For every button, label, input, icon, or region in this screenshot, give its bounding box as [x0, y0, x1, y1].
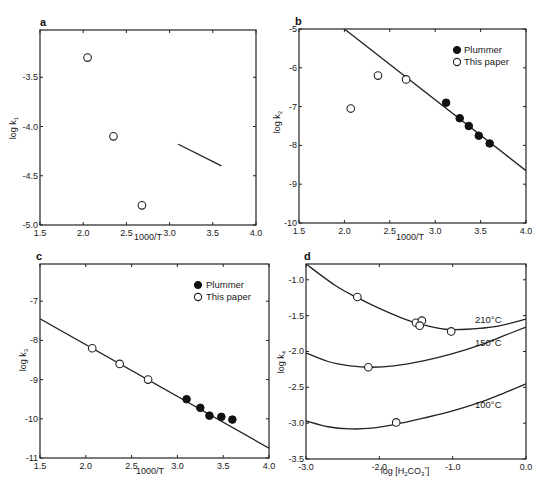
y-tick-label: -2.0 [288, 346, 304, 356]
y-tick-label: -8 [30, 335, 38, 345]
data-point [365, 363, 373, 371]
curve-label-150c: 150°C [475, 337, 502, 348]
panel-letter-c: c [36, 250, 42, 262]
y-tick-label: -6 [289, 63, 297, 73]
y-tick-label: -3.5 [288, 454, 304, 464]
y-tick-label: -3.0 [288, 418, 304, 428]
data-point [447, 328, 455, 336]
y-tick-label: -1.0 [288, 275, 304, 285]
curve-label-100c: 100°C [475, 399, 502, 410]
panel-b: b 1.52.02.53.03.54.0-5-6-7-8-9-10 1000/T… [272, 15, 532, 242]
data-series-c [40, 319, 269, 448]
legend-b: Plummer This paper [453, 44, 508, 67]
x-tick-label: 2.5 [384, 226, 397, 236]
plot-frame-a [40, 30, 256, 225]
y-tick-label: -5 [289, 24, 297, 34]
data-point [416, 322, 424, 330]
y-tick-label: -8 [289, 140, 297, 150]
panel-letter-a: a [40, 16, 47, 28]
y-tick-label: -10 [284, 218, 297, 228]
legend-label-plummer-c: Plummer [206, 279, 244, 290]
y-tick-label: -11 [26, 453, 38, 463]
data-point [456, 114, 464, 122]
y-tick-label: -4.5 [22, 171, 38, 181]
y-axis-label-a: log k1 [8, 116, 19, 139]
data-point [183, 395, 191, 403]
y-tick-label: -9 [289, 179, 297, 189]
x-tick-label: 3.0 [163, 228, 176, 238]
data-series-a [84, 54, 222, 209]
y-tick-label: -3.5 [22, 72, 38, 82]
x-tick-label: -1.0 [445, 462, 461, 472]
panel-c: c 1.52.02.53.03.54.0-7-8-9-10-11 1000/T … [18, 250, 275, 476]
plot-frame-d [306, 264, 526, 459]
y-tick-label: -9 [30, 375, 38, 385]
data-point [218, 413, 226, 421]
curve-label-210c: 210°C [475, 314, 502, 325]
y-tick-label: -5.0 [22, 220, 38, 230]
legend-label-thispaper-c: This paper [206, 291, 251, 302]
x-tick-label: 2.5 [120, 228, 133, 238]
axes-ticks-d: -3.0-2.0-1.00.0-1.0-1.5-2.0-2.5-3.0-3.5 [288, 264, 532, 472]
data-point [88, 344, 96, 352]
legend-marker-open-c [194, 293, 201, 300]
y-axis-label-c: log k3 [18, 348, 29, 371]
data-point [374, 72, 382, 80]
data-point [475, 132, 483, 140]
x-tick-label: 2.0 [338, 226, 351, 236]
x-tick-label: 2.0 [77, 228, 90, 238]
y-axis-label-d: log k4 [276, 350, 287, 373]
data-point [110, 133, 118, 141]
data-point [442, 99, 450, 107]
y-tick-label: -2.5 [288, 382, 304, 392]
panel-letter-d: d [304, 250, 311, 262]
x-tick-label: 3.5 [207, 228, 220, 238]
legend-marker-filled-b [453, 46, 460, 53]
data-point [84, 54, 92, 62]
legend-marker-filled-c [194, 281, 201, 288]
x-axis-label-c: 1000/T [136, 466, 165, 476]
data-point [402, 76, 410, 84]
x-tick-label: 3.5 [217, 461, 230, 471]
x-axis-label-a: 1000/T [134, 232, 163, 242]
y-axis-label-b: log k2 [272, 110, 283, 133]
x-tick-label: 4.0 [250, 228, 263, 238]
y-tick-label: -1.5 [288, 311, 304, 321]
data-point [144, 376, 152, 384]
data-point [197, 404, 205, 412]
data-point [116, 360, 124, 368]
legend-label-thispaper-b: This paper [464, 56, 509, 67]
y-tick-label: -4.0 [22, 122, 38, 132]
data-point [229, 416, 237, 424]
panel-d: d -3.0-2.0-1.00.0-1.0-1.5-2.0-2.5-3.0-3.… [276, 250, 532, 477]
y-tick-label: -7 [30, 296, 38, 306]
legend-c: Plummer This paper [194, 279, 250, 302]
curve-line [178, 144, 221, 166]
x-axis-label-b: 1000/T [396, 232, 425, 242]
data-point [486, 140, 494, 148]
y-tick-label: -7 [289, 102, 297, 112]
x-axis-label-d: log [H2CO3*] [381, 466, 430, 477]
x-tick-label: 3.5 [474, 226, 487, 236]
data-point [138, 202, 146, 210]
legend-marker-open-b [453, 58, 460, 65]
x-tick-label: 4.0 [520, 226, 533, 236]
x-tick-label: 2.0 [80, 461, 93, 471]
x-tick-label: 0.0 [520, 462, 533, 472]
y-tick-label: -10 [25, 414, 38, 424]
x-tick-label: 4.0 [263, 461, 276, 471]
x-tick-label: 3.0 [429, 226, 442, 236]
data-point [354, 293, 362, 301]
data-point [465, 122, 473, 130]
data-point [347, 105, 355, 113]
data-point [392, 419, 400, 427]
legend-label-plummer-b: Plummer [464, 44, 502, 55]
data-point [206, 412, 214, 420]
figure-canvas: a 1.52.02.53.03.54.0-3.5-4.0-4.5-5.0 100… [0, 0, 546, 488]
curve-fit [40, 319, 269, 448]
x-tick-label: 3.0 [171, 461, 184, 471]
panel-a: a 1.52.02.53.03.54.0-3.5-4.0-4.5-5.0 100… [8, 16, 262, 242]
